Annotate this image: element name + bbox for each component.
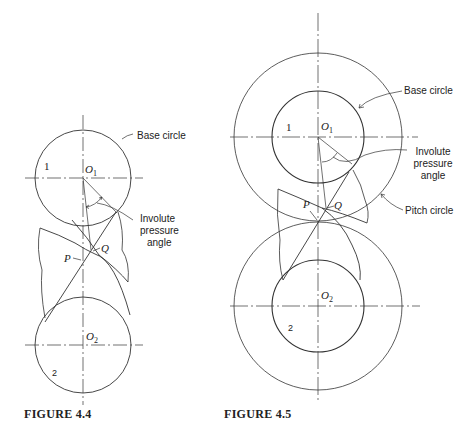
fig44-involute-label-line1: Involute: [140, 213, 175, 225]
fig45-involute-label-line1: Involute: [410, 146, 456, 158]
fig45-base-circle-label: Base circle: [404, 85, 453, 97]
diagram-canvas: [0, 0, 476, 434]
fig44-P-label: P: [64, 252, 71, 264]
fig44-O1-label: O1: [85, 163, 97, 178]
involute-tooth-2: [322, 208, 360, 280]
involute-tooth-1: [278, 189, 367, 223]
fig44-involute-label-line3: angle: [147, 237, 171, 249]
fig45-gear2-number: 2: [288, 323, 293, 333]
fig44-Q-label: Q: [101, 242, 109, 254]
fig45-involute-label-line2: pressure: [410, 158, 456, 170]
fig45-P-label: P: [303, 198, 310, 210]
figure-4-5-caption: FIGURE 4.5: [224, 407, 292, 422]
figure-4-4-drawing: [25, 115, 143, 405]
fig44-gear2-number: 2: [52, 368, 57, 378]
fig44-gear1-number: 1: [44, 160, 50, 172]
involute-tooth-1: [72, 220, 128, 282]
fig45-O1-label: O1: [321, 120, 333, 135]
fig45-O2-label: O2: [321, 289, 333, 304]
fig45-pitch-circle-label: Pitch circle: [405, 205, 453, 217]
involute-tooth-2: [40, 228, 130, 315]
fig44-O2-label: O2: [86, 330, 98, 345]
figure-4-4-caption: FIGURE 4.4: [24, 407, 92, 422]
fig44-base-circle-label: Base circle: [137, 130, 186, 142]
fig45-gear1-number: 1: [286, 121, 292, 133]
fig45-Q-label: Q: [334, 199, 342, 211]
figure-4-5-drawing: [230, 13, 420, 402]
line-of-action: [45, 212, 116, 322]
fig45-involute-label-line3: angle: [410, 170, 456, 182]
fig44-involute-label-line2: pressure: [140, 225, 179, 237]
